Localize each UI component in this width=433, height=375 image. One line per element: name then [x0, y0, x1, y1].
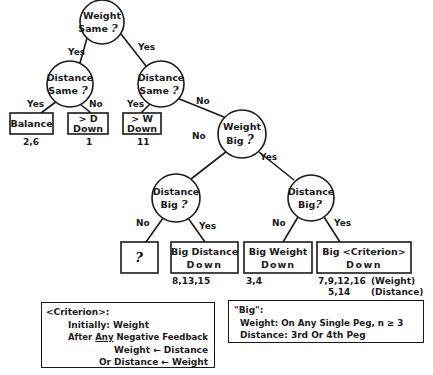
question-mark-icon: ? [111, 22, 118, 35]
node-dbr-line1: Distance [288, 186, 335, 197]
cases-big-distance: 8,13,15 [172, 276, 210, 286]
node-wb-line1: Weight [223, 121, 261, 132]
svg-text:Same ?: Same ? [48, 84, 88, 97]
legend-after-suffix: Negative Feedback [116, 332, 208, 342]
edge-wb-left [191, 151, 227, 179]
edge-label-dbl-left: No [136, 218, 150, 228]
leaf-greater-w-line2: Down [127, 123, 157, 134]
question-mark-icon: ? [315, 198, 322, 211]
node-dbl-line1: Distance [153, 186, 200, 197]
leaf-big-distance-line1: Big Distance [171, 246, 238, 257]
node-dbl-line2: Big [160, 199, 177, 210]
question-mark-icon: ? [172, 84, 179, 97]
leaf-unknown-label: ? [135, 250, 143, 265]
question-mark-icon: ? [247, 133, 255, 147]
question-mark-icon: ? [81, 84, 88, 97]
cases-greater-d: 1 [86, 137, 92, 147]
node-dsl-line2: Same [48, 85, 78, 96]
cases-greater-w: 11 [137, 137, 150, 147]
label-weight: (Weight) [371, 276, 415, 286]
edge-label-dbr-right: Yes [333, 218, 351, 228]
edge-label-wb-right: Yes [259, 152, 277, 162]
svg-text:Big ?: Big ? [226, 133, 255, 147]
cases-balance: 2,6 [23, 137, 39, 147]
svg-text:Big?: Big? [298, 198, 322, 211]
node-weight-big [218, 110, 266, 158]
question-mark-icon: ? [181, 198, 188, 211]
node-dsr-line2: Same [139, 85, 169, 96]
node-wb-line2: Big [226, 135, 243, 146]
legend-initially-label: Initially: [68, 320, 110, 330]
node-dsl-line1: Distance [47, 72, 94, 83]
legend-criterion: <Criterion>: Initially: Weight After Any… [41, 302, 215, 368]
node-dist-big-right [288, 175, 334, 221]
legend-distance-label: Distance: [240, 330, 288, 340]
legend-after-prefix: After [68, 332, 92, 342]
leaf-big-distance-line2: Down [187, 259, 223, 270]
legend-rule-2: Or Distance ← Weight [46, 356, 210, 369]
legend-rule-1: Weight ← Distance [46, 344, 210, 357]
edge-label-dsl-left: Yes [26, 99, 44, 109]
leaf-greater-d-line2: Down [73, 123, 103, 134]
label-distance: (Distance) [371, 287, 423, 297]
edge-label-root-left: Yes [67, 47, 85, 57]
node-root-line1: Weight [83, 10, 121, 21]
legend-after-any: Any [95, 332, 113, 342]
node-dbr-line2: Big [298, 199, 315, 210]
legend-criterion-title: <Criterion>: [46, 306, 210, 319]
leaf-big-criterion-line2: Down [346, 259, 382, 270]
legend-big-title: "Big": [234, 304, 418, 317]
leaf-big-weight-line2: Down [261, 259, 295, 270]
legend-big: "Big": Weight: On Any Single Peg, n ≥ 3 … [228, 300, 424, 343]
cases-big-criterion-weight: 7,9,12,16 [318, 276, 366, 286]
edge-label-dsr-right: No [196, 96, 210, 106]
edge-label-dbr-left: No [272, 218, 286, 228]
legend-initially-value: Weight [113, 320, 149, 330]
edge-label-dbl-right: Yes [198, 221, 216, 231]
legend-distance-value: 3rd Or 4th Peg [291, 330, 366, 340]
legend-weight-label: Weight: [240, 318, 278, 328]
leaf-big-weight-line1: Big Weight [249, 246, 308, 257]
svg-text:Big ?: Big ? [160, 198, 188, 211]
svg-text:Same ?: Same ? [139, 84, 179, 97]
edge-label-root-right: Yes [137, 42, 155, 52]
leaf-big-criterion-line1: Big <Criterion> [322, 246, 406, 257]
node-dsr-line1: Distance [138, 72, 185, 83]
node-dist-big-left [152, 174, 200, 222]
svg-text:Same ?: Same ? [78, 22, 118, 35]
cases-big-weight: 3,4 [246, 276, 262, 286]
node-root-line2: Same [78, 23, 108, 34]
edge-label-dsr-left: Yes [126, 99, 144, 109]
cases-big-criterion-distance: 5,14 [328, 287, 350, 297]
edge-label-wb-left: No [192, 131, 206, 141]
edge-label-dsl-right: No [89, 99, 103, 109]
leaf-balance-label: Balance [10, 118, 52, 129]
legend-weight-value: On Any Single Peg, n ≥ 3 [281, 318, 403, 328]
